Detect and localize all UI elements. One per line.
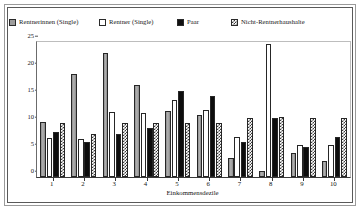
- bar-4-series1[interactable]: [134, 85, 140, 177]
- bar-3-series4[interactable]: [122, 123, 128, 177]
- bar-2-series1[interactable]: [71, 74, 77, 177]
- bar-3-series1[interactable]: [103, 53, 109, 177]
- bar-6-series4[interactable]: [216, 123, 222, 177]
- bar-10-series4[interactable]: [341, 118, 347, 177]
- bar-group-3: [100, 42, 131, 177]
- bar-3-series2[interactable]: [109, 112, 115, 177]
- bar-1-series4[interactable]: [60, 123, 66, 177]
- bar-8-series1[interactable]: [259, 171, 265, 177]
- bar-group-5: [162, 42, 193, 177]
- bar-9-series4[interactable]: [310, 118, 316, 177]
- bar-2-series3[interactable]: [84, 142, 90, 177]
- bar-group-9: [287, 42, 318, 177]
- bar-8-series4[interactable]: [279, 117, 285, 177]
- bar-5-series4[interactable]: [185, 123, 191, 177]
- bar-5-series3[interactable]: [178, 91, 184, 177]
- bar-6-series3[interactable]: [210, 96, 216, 177]
- bar-1-series2[interactable]: [47, 138, 53, 177]
- bar-7-series3[interactable]: [241, 142, 247, 177]
- bar-group-7: [225, 42, 256, 177]
- bar-9-series3[interactable]: [303, 147, 309, 177]
- bar-10-series2[interactable]: [328, 145, 334, 177]
- bar-9-series2[interactable]: [297, 145, 303, 177]
- bar-5-series1[interactable]: [165, 111, 171, 177]
- bar-7-series2[interactable]: [234, 137, 240, 178]
- chart-screenshot: Rentnerinnen (Single)Rentner (Single)Paa…: [0, 0, 361, 212]
- plot-area: [36, 41, 351, 178]
- y-tick-10: 10: [27, 114, 34, 121]
- bar-6-series2[interactable]: [203, 110, 209, 178]
- bar-10-series1[interactable]: [322, 161, 328, 177]
- y-tick-5: 5: [31, 141, 34, 148]
- bar-group-4: [131, 42, 162, 177]
- y-tick-25: 25: [27, 33, 34, 40]
- bar-9-series1[interactable]: [291, 153, 297, 177]
- bar-2-series2[interactable]: [78, 139, 84, 177]
- bar-group-6: [193, 42, 224, 177]
- bar-4-series4[interactable]: [153, 123, 159, 177]
- bar-7-series4[interactable]: [247, 118, 253, 177]
- bar-6-series1[interactable]: [197, 115, 203, 177]
- y-tick-0: 0: [31, 168, 34, 175]
- y-tick-mark: [35, 36, 38, 37]
- bar-8-series2[interactable]: [266, 44, 272, 177]
- bar-group-2: [68, 42, 99, 177]
- bar-group-10: [319, 42, 350, 177]
- bar-4-series3[interactable]: [147, 128, 153, 177]
- plot-wrapper: 0510152025 12345678910 Einkommensdezile: [0, 0, 361, 212]
- bar-3-series3[interactable]: [116, 134, 122, 177]
- bar-groups: [37, 42, 350, 177]
- bar-7-series1[interactable]: [228, 158, 234, 177]
- bar-5-series2[interactable]: [172, 100, 178, 177]
- y-tick-15: 15: [27, 87, 34, 94]
- bar-1-series1[interactable]: [40, 122, 46, 177]
- bar-2-series4[interactable]: [91, 134, 97, 177]
- bar-4-series2[interactable]: [141, 113, 147, 177]
- y-tick-20: 20: [27, 60, 34, 67]
- bar-group-1: [37, 42, 68, 177]
- bar-8-series3[interactable]: [272, 118, 278, 177]
- y-axis: 0510152025: [10, 36, 34, 181]
- bar-1-series3[interactable]: [53, 132, 59, 177]
- bar-group-8: [256, 42, 287, 177]
- x-axis-title: Einkommensdezile: [36, 190, 349, 197]
- bar-10-series3[interactable]: [335, 137, 341, 178]
